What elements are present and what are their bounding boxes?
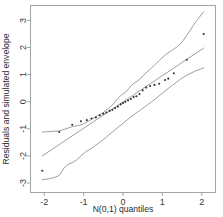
data-point-marker — [164, 79, 166, 81]
data-point-marker — [120, 103, 122, 105]
data-point-marker — [71, 124, 73, 126]
data-point-marker — [145, 87, 147, 89]
x-tick-label: 1 — [160, 197, 165, 207]
data-point-marker — [130, 98, 132, 100]
qq-plot-figure: -2-1012 3210-1-2-3 N(0,1) quantiles Resi… — [0, 0, 223, 217]
data-point-marker — [58, 131, 60, 133]
data-point-marker — [86, 119, 88, 121]
data-point-marker — [105, 112, 107, 114]
x-tick-label: -2 — [40, 197, 48, 207]
data-point-marker — [124, 101, 126, 103]
data-point-marker — [122, 102, 124, 104]
data-point-marker — [99, 114, 101, 116]
y-tick-label: -2 — [19, 152, 29, 160]
data-point-marker — [142, 89, 144, 91]
data-point-marker — [167, 78, 169, 80]
data-point-marker — [102, 113, 104, 115]
y-tick-label: 3 — [19, 18, 29, 23]
x-tick-label: -1 — [80, 197, 88, 207]
data-point-marker — [186, 59, 188, 61]
data-point-marker — [117, 106, 119, 108]
x-tick-label: 2 — [199, 197, 204, 207]
data-point-marker — [135, 95, 137, 97]
y-tick-label: -3 — [19, 179, 29, 187]
data-point-marker — [153, 84, 155, 86]
data-point-marker — [90, 117, 92, 119]
x-axis-title: N(0,1) quantiles — [93, 204, 154, 214]
data-point-marker — [158, 83, 160, 85]
data-point-marker — [203, 33, 205, 35]
data-point-marker — [109, 110, 111, 112]
data-point-marker — [133, 96, 135, 98]
data-point-marker — [41, 170, 43, 172]
data-point-marker — [114, 107, 116, 109]
y-tick-label: -1 — [19, 125, 29, 133]
plot-canvas: -2-1012 3210-1-2-3 N(0,1) quantiles Resi… — [0, 0, 223, 217]
data-point-marker — [149, 85, 151, 87]
data-point-marker — [80, 120, 82, 122]
y-tick-label: 2 — [19, 45, 29, 50]
data-point-marker — [111, 109, 113, 111]
y-axis-title: Residuals and simulated envelope — [1, 33, 11, 164]
y-tick-label: 0 — [19, 99, 29, 104]
y-tick-label: 1 — [19, 72, 29, 77]
plot-background — [0, 0, 223, 217]
data-point-marker — [173, 72, 175, 74]
data-point-marker — [95, 116, 97, 118]
data-point-marker — [127, 99, 129, 101]
data-point-marker — [138, 93, 140, 95]
